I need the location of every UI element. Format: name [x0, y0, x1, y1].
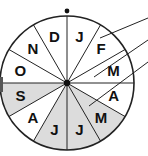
month-label: D: [49, 28, 60, 45]
month-label: S: [15, 87, 25, 104]
month-label: F: [97, 40, 106, 57]
month-label: A: [108, 87, 119, 104]
top-marker-dot-icon: [65, 9, 70, 14]
month-label: J: [75, 28, 83, 45]
month-label: A: [27, 109, 38, 126]
month-label: J: [75, 121, 83, 138]
center-hub-icon: [64, 80, 70, 86]
left-edge-object: [0, 77, 3, 92]
month-label: M: [107, 62, 120, 79]
month-label: J: [50, 121, 58, 138]
month-wheel-diagram: JFMAMJJASOND: [0, 0, 148, 156]
pointer-line: [100, 18, 148, 38]
month-label: O: [15, 62, 27, 79]
month-label: M: [95, 109, 108, 126]
month-label: N: [27, 40, 38, 57]
